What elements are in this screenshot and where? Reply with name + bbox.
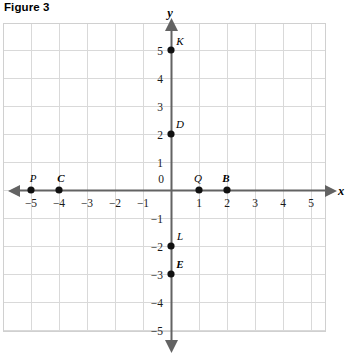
- grid-border: [4, 24, 326, 332]
- x-tick-label: −4: [53, 197, 65, 209]
- x-tick-label: −2: [109, 197, 121, 209]
- x-tick-label: −3: [81, 197, 93, 209]
- y-tick-label: −3: [151, 269, 163, 281]
- point-label-k: K: [175, 35, 184, 47]
- point-label-b: B: [221, 172, 229, 184]
- point-label-l: L: [176, 230, 183, 242]
- data-point-e: [167, 270, 174, 277]
- point-label-p: P: [29, 172, 37, 184]
- axis-names: xy: [165, 6, 344, 198]
- coordinate-plane: −5−4−3−2−11234554321−1−2−3−4−50 xy KDLEP…: [0, 0, 347, 359]
- data-points: KDLEPCQB: [27, 35, 230, 278]
- x-tick-label: 5: [308, 197, 314, 209]
- y-tick-label: 4: [157, 73, 163, 85]
- data-point-c: [55, 186, 62, 193]
- y-tick-label: 1: [157, 157, 163, 169]
- y-tick-label: −2: [151, 241, 163, 253]
- grid-lines: [3, 23, 325, 331]
- y-axis-arrow-down: [165, 340, 178, 353]
- x-tick-label: −5: [25, 197, 37, 209]
- y-tick-label: 5: [157, 45, 163, 57]
- data-point-k: [167, 46, 174, 53]
- data-point-q: [195, 186, 202, 193]
- origin-label: 0: [158, 173, 164, 185]
- y-tick-label: −1: [151, 213, 163, 225]
- x-tick-label: 2: [224, 197, 230, 209]
- x-tick-label: 3: [252, 197, 258, 209]
- point-label-d: D: [175, 118, 184, 130]
- x-tick-label: 4: [280, 197, 286, 209]
- data-point-d: [167, 130, 174, 137]
- x-axis-label: x: [337, 184, 344, 198]
- y-tick-label: −4: [151, 297, 163, 309]
- x-tick-label: 1: [196, 197, 202, 209]
- point-label-q: Q: [194, 172, 202, 184]
- point-label-c: C: [57, 172, 65, 184]
- grid-outline: [4, 24, 326, 332]
- y-tick-label: 2: [157, 129, 163, 141]
- y-axis-label: y: [165, 6, 173, 20]
- x-axis-arrow-right: [325, 185, 337, 197]
- y-tick-label: −5: [151, 325, 163, 337]
- data-point-b: [223, 186, 230, 193]
- y-tick-label: 3: [157, 101, 163, 113]
- coordinate-plane-svg: −5−4−3−2−11234554321−1−2−3−4−50 xy KDLEP…: [0, 0, 347, 359]
- point-label-e: E: [175, 258, 183, 270]
- x-tick-label: −1: [137, 197, 149, 209]
- x-axis-arrow-left: [8, 185, 20, 197]
- data-point-l: [167, 242, 174, 249]
- data-point-p: [27, 186, 34, 193]
